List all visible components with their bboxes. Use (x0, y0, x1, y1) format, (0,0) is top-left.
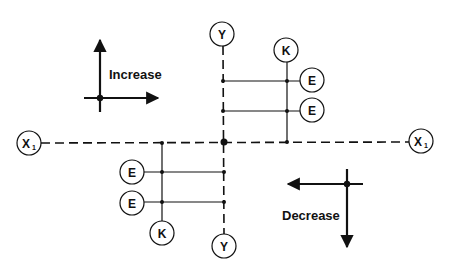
origin-node (221, 139, 228, 146)
y-bottom-label: Y (220, 240, 228, 254)
x1-left-label: X (22, 137, 30, 151)
upper-e-label-2: E (308, 104, 316, 118)
y-top-node: Y (210, 22, 234, 46)
lower-k-node: K (150, 221, 174, 245)
increase-label: Increase (109, 67, 162, 82)
lower-e-node-1: E (120, 160, 144, 184)
diagram-canvas: K E E E E K (0, 0, 451, 276)
upper-right-group: K E E (221, 38, 324, 144)
upper-e-node-2: E (300, 98, 324, 122)
lower-e-node-2: E (120, 191, 144, 215)
increase-legend: Increase (84, 40, 162, 112)
lower-k-label: K (158, 227, 167, 241)
upper-e-label-1: E (308, 74, 316, 88)
upper-k-label: K (282, 44, 291, 58)
decrease-legend: Decrease (282, 169, 363, 247)
lower-left-group: E E K (120, 141, 226, 245)
upper-e-node-1: E (300, 68, 324, 92)
x1-left-subscript: 1 (32, 144, 36, 151)
upper-k-node: K (274, 38, 298, 62)
lower-e-label-1: E (128, 166, 136, 180)
x1-right-subscript: 1 (424, 142, 428, 149)
decrease-label: Decrease (282, 208, 340, 223)
y-top-label: Y (218, 28, 226, 42)
x1-right-label: X (414, 135, 422, 149)
lower-e-label-2: E (128, 197, 136, 211)
x1-right-node: X 1 (409, 129, 433, 153)
y-bottom-node: Y (212, 234, 236, 258)
x1-left-node: X 1 (17, 131, 41, 155)
